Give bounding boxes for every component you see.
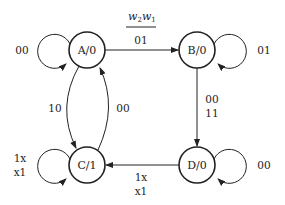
state-a: A/0 xyxy=(69,32,105,68)
svg-text:11: 11 xyxy=(205,107,218,119)
svg-text:C/1: C/1 xyxy=(77,159,96,172)
svg-text:01: 01 xyxy=(257,44,270,56)
state-diagram: w2w1 A/0 B/0 C/1 D/0 00 01 1x x1 00 01 xyxy=(0,0,285,205)
transition-a-to-c: 10 xyxy=(48,66,79,148)
transition-c-to-a: 00 xyxy=(98,68,130,150)
transition-b-to-d: 00 11 xyxy=(197,68,219,146)
svg-text:00: 00 xyxy=(15,44,28,56)
self-loop-a: 00 xyxy=(15,34,70,68)
svg-text:00: 00 xyxy=(205,93,218,105)
svg-text:1x: 1x xyxy=(135,171,148,183)
svg-text:00: 00 xyxy=(257,159,270,171)
svg-text:00: 00 xyxy=(116,102,129,114)
svg-text:A/0: A/0 xyxy=(77,44,97,57)
transition-a-to-b: 01 xyxy=(105,34,178,50)
svg-text:D/0: D/0 xyxy=(187,159,207,172)
svg-text:B/0: B/0 xyxy=(188,44,207,57)
state-b: B/0 xyxy=(179,32,215,68)
self-loop-b: 01 xyxy=(214,34,271,68)
svg-text:x1: x1 xyxy=(135,185,148,197)
self-loop-c: 1x x1 xyxy=(14,149,70,183)
svg-text:01: 01 xyxy=(134,34,147,46)
svg-text:x1: x1 xyxy=(14,166,27,178)
svg-text:w2w1: w2w1 xyxy=(128,10,156,24)
self-loop-d: 00 xyxy=(214,149,271,183)
svg-text:10: 10 xyxy=(48,102,61,114)
input-variables-header: w2w1 xyxy=(126,10,156,27)
state-d: D/0 xyxy=(179,147,215,183)
svg-text:1x: 1x xyxy=(14,152,27,164)
transition-d-to-c: 1x x1 xyxy=(106,165,179,197)
state-c: C/1 xyxy=(69,147,105,183)
